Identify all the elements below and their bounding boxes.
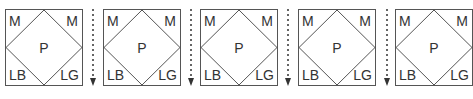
label-center: P: [396, 41, 472, 55]
label-top-right: M: [456, 14, 468, 28]
panel-3: M M P LB LG: [200, 9, 278, 86]
label-bottom-left: LB: [107, 68, 124, 82]
label-top-left: M: [302, 14, 314, 28]
label-top-left: M: [399, 14, 411, 28]
label-bottom-right: LG: [60, 68, 79, 82]
label-bottom-left: LB: [9, 68, 26, 82]
label-bottom-left: LB: [399, 68, 416, 82]
label-top-left: M: [107, 14, 119, 28]
label-bottom-left: LB: [302, 68, 319, 82]
label-bottom-right: LG: [158, 68, 177, 82]
label-top-right: M: [66, 14, 78, 28]
panel-1: M M P LB LG: [5, 9, 83, 86]
label-top-right: M: [261, 14, 273, 28]
label-center: P: [201, 41, 277, 55]
label-bottom-right: LG: [255, 68, 274, 82]
label-center: P: [104, 41, 180, 55]
label-bottom-right: LG: [450, 68, 469, 82]
dotted-down-arrow-icon: [89, 8, 97, 87]
label-top-right: M: [164, 14, 176, 28]
label-top-left: M: [204, 14, 216, 28]
label-center: P: [299, 41, 375, 55]
label-top-left: M: [9, 14, 21, 28]
label-top-right: M: [359, 14, 371, 28]
panel-5: M M P LB LG: [395, 9, 473, 86]
panel-2: M M P LB LG: [103, 9, 181, 86]
label-bottom-right: LG: [353, 68, 372, 82]
dotted-down-arrow-icon: [187, 8, 195, 87]
label-center: P: [6, 41, 82, 55]
dotted-down-arrow-icon: [284, 8, 292, 87]
dotted-down-arrow-icon: [383, 8, 391, 87]
panel-4: M M P LB LG: [298, 9, 376, 86]
label-bottom-left: LB: [204, 68, 221, 82]
